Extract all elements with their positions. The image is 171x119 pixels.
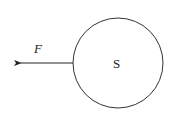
body-label: S: [113, 56, 120, 71]
force-label: F: [33, 41, 43, 56]
force-diagram: F S: [0, 0, 171, 119]
